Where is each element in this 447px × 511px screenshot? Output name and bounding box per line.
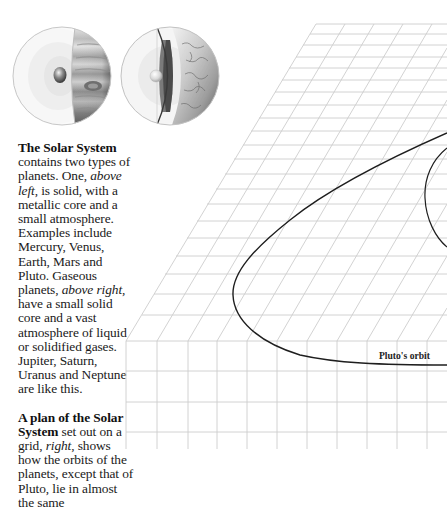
- inner-orbit-path: [425, 148, 447, 247]
- pluto-orbit-path: [233, 133, 447, 365]
- pluto-orbit-label: Pluto's orbit: [379, 350, 430, 361]
- grid-lines: [126, 24, 447, 449]
